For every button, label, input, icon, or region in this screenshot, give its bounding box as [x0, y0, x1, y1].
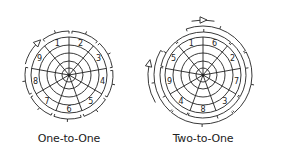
one-to-one-spoke-8 — [32, 68, 69, 75]
one-to-one-sector-label-4: 4 — [100, 77, 105, 86]
one-to-one-arrow-arc — [25, 44, 36, 64]
one-to-one-brace-5-tick — [96, 110, 98, 112]
two-to-one-spoke-3 — [203, 68, 240, 75]
one-to-one-brace-4-tick — [112, 84, 115, 85]
two-to-one-spoke-2 — [203, 46, 227, 75]
two-to-one-inner-brace-4-tick — [163, 96, 166, 97]
two-to-one-sector-label-4: 4 — [179, 97, 184, 106]
one-to-one-sector-label-5: 5 — [88, 97, 93, 106]
one-to-one-sector-label-1: 1 — [55, 39, 60, 48]
one-to-one-sector-label-7: 7 — [45, 97, 50, 106]
two-to-one-sector-label-3: 3 — [222, 97, 227, 106]
two-to-one-left-arrow-icon — [145, 60, 151, 68]
two-to-one-outer-brace-1-tick — [220, 26, 221, 29]
one-to-one-spoke-4 — [69, 75, 102, 94]
one-to-one-sector-label-3: 3 — [96, 54, 101, 63]
two-to-one-spoke-4 — [203, 75, 236, 94]
caption-one-to-one: One-to-One — [9, 132, 129, 145]
one-to-one-brace-2-tick — [85, 31, 86, 34]
two-to-one-center-dot — [201, 73, 204, 76]
one-to-one-brace-6 — [54, 116, 81, 119]
two-to-one-inner-brace-5-tick — [164, 51, 167, 53]
one-to-one-brace-3-tick — [108, 53, 111, 54]
one-to-one-brace-1-tick — [54, 30, 55, 33]
two-to-one-sector-label-2: 2 — [230, 54, 235, 63]
one-to-one-spoke-2 — [69, 46, 93, 75]
one-to-one-brace-2 — [72, 31, 97, 41]
two-to-one-spoke-8 — [166, 68, 203, 75]
one-to-one-brace-7-tick — [38, 108, 40, 110]
two-to-one-sector-label-1: 1 — [189, 39, 194, 48]
one-to-one-brace-8 — [25, 67, 29, 94]
two-to-one-outer-brace-2-tick — [251, 84, 254, 85]
one-to-one-sector-label-9: 9 — [37, 54, 42, 63]
one-to-one-spoke-7 — [36, 75, 69, 94]
two-to-one-sector-label-9: 9 — [167, 77, 172, 86]
one-to-one-spoke-9 — [45, 46, 69, 75]
two-to-one-sector-label-5: 5 — [171, 54, 176, 63]
two-to-one-sector-label-6: 6 — [212, 39, 217, 48]
one-to-one-brace-4 — [107, 70, 113, 97]
two-to-one-spoke-9 — [179, 46, 203, 75]
caption-two-to-one: Two-to-One — [143, 132, 263, 145]
two-to-one-inner-brace-3-tick — [217, 116, 218, 119]
one-to-one-center-dot — [67, 73, 70, 76]
two-to-one-top-arrow-icon — [200, 17, 207, 23]
one-to-one-sector-label-6: 6 — [66, 105, 71, 114]
two-to-one-sector-label-8: 8 — [200, 105, 205, 114]
one-to-one-sector-label-8: 8 — [33, 77, 38, 86]
one-to-one-sector-label-2: 2 — [78, 39, 83, 48]
two-to-one-spoke-7 — [170, 75, 203, 94]
two-to-one-sector-label-7: 7 — [234, 77, 239, 86]
one-to-one-spoke-3 — [69, 68, 106, 75]
